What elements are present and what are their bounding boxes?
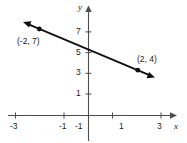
- x-tick-label-neg1: -1: [59, 122, 67, 131]
- data-point-label-left: (-2, 7): [17, 37, 40, 46]
- data-point-marker-right: [135, 68, 140, 73]
- x-axis-label: x: [174, 122, 178, 131]
- x-tick-label-3: 3: [157, 122, 162, 131]
- x-tick-label-neg1-duplicate: -1: [75, 122, 83, 131]
- y-axis-label: y: [78, 3, 82, 12]
- data-point-marker-left: [37, 27, 42, 32]
- y-axis-arrowhead-icon: [85, 6, 91, 13]
- y-tick-label-7: 7: [76, 27, 81, 36]
- line-right-arrowhead-icon: [147, 72, 156, 78]
- x-tick-label-neg3: -3: [10, 122, 18, 131]
- y-tick-label-3: 3: [76, 68, 81, 77]
- x-tick-label-1: 1: [119, 122, 124, 131]
- data-point-label-right: (2, 4): [137, 55, 157, 64]
- y-tick-label-5: 5: [76, 48, 81, 57]
- x-axis-arrowhead-icon: [170, 112, 177, 118]
- line-left-arrowhead-icon: [23, 21, 32, 27]
- coordinate-plane-figure: y x 7 5 3 1 -3 -1 -1 1 3 (-2, 7) (2, 4): [0, 0, 187, 143]
- x-axis: [8, 112, 177, 118]
- y-tick-label-1: 1: [76, 89, 81, 98]
